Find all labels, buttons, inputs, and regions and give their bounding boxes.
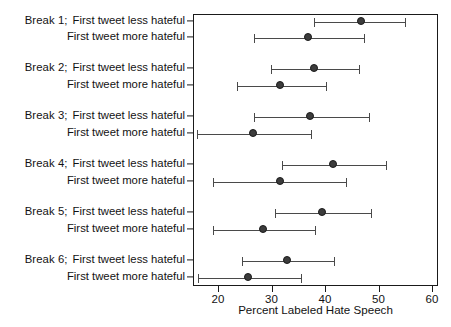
data-point-marker	[357, 17, 365, 25]
y-axis-label: First tweet more hateful	[67, 271, 185, 282]
break-group-label: Break 2;	[25, 61, 68, 73]
error-bar-cap-high	[359, 65, 360, 74]
y-axis-label: Break 4;First tweet less hateful	[25, 158, 185, 169]
condition-label: First tweet more hateful	[67, 174, 185, 186]
condition-label: First tweet less hateful	[73, 14, 185, 26]
y-axis-tick	[187, 276, 193, 277]
x-axis-tick	[432, 286, 433, 292]
y-axis-tick	[187, 36, 193, 37]
y-axis-label: Break 2;First tweet less hateful	[25, 62, 185, 73]
error-bar-cap-high	[301, 274, 302, 283]
error-bar-cap-high	[311, 130, 312, 139]
error-bar-cap-high	[326, 82, 327, 91]
y-axis-label: First tweet more hateful	[67, 223, 185, 234]
condition-label: First tweet less hateful	[73, 157, 185, 169]
error-bar-cap-high	[371, 209, 372, 218]
condition-label: First tweet more hateful	[67, 270, 185, 282]
data-point-marker	[329, 160, 337, 168]
y-axis-label: Break 5;First tweet less hateful	[25, 206, 185, 217]
x-axis-tick	[272, 286, 273, 292]
error-bar-cap-low	[197, 130, 198, 139]
error-bar-cap-high	[315, 226, 316, 235]
error-bar-cap-high	[334, 257, 335, 266]
data-point-marker	[310, 64, 318, 72]
error-bar-cap-low	[242, 257, 243, 266]
y-axis-label: First tweet more hateful	[67, 127, 185, 138]
plot-area	[193, 14, 438, 286]
error-bar-cap-high	[364, 34, 365, 43]
break-group-label: Break 1;	[25, 14, 68, 26]
y-axis-tick	[187, 132, 193, 133]
x-axis-tick	[325, 286, 326, 292]
data-point-marker	[249, 129, 257, 137]
y-axis-tick	[187, 20, 193, 21]
error-bar-cap-low	[213, 226, 214, 235]
error-bar-cap-low	[271, 65, 272, 74]
data-point-marker	[259, 225, 267, 233]
data-point-marker	[306, 112, 314, 120]
error-bar-cap-low	[237, 82, 238, 91]
y-axis-tick	[187, 228, 193, 229]
y-axis-tick	[187, 211, 193, 212]
condition-label: First tweet more hateful	[67, 30, 185, 42]
y-axis-tick	[187, 84, 193, 85]
data-point-marker	[244, 273, 252, 281]
error-bar-cap-low	[198, 274, 199, 283]
error-bar-cap-low	[254, 34, 255, 43]
y-axis-tick	[187, 67, 193, 68]
break-group-label: Break 4;	[25, 157, 68, 169]
condition-label: First tweet more hateful	[67, 126, 185, 138]
hate-speech-forest-plot: Break 1;First tweet less hatefulFirst tw…	[0, 0, 451, 327]
error-bar-cap-high	[369, 113, 370, 122]
data-point-marker	[276, 81, 284, 89]
error-bar-cap-low	[275, 209, 276, 218]
data-point-marker	[276, 177, 284, 185]
error-bar-cap-low	[213, 178, 214, 187]
error-bar-cap-low	[254, 113, 255, 122]
condition-label: First tweet less hateful	[73, 61, 185, 73]
condition-label: First tweet more hateful	[67, 222, 185, 234]
error-bar-cap-low	[282, 161, 283, 170]
y-axis-label: Break 6;First tweet less hateful	[25, 254, 185, 265]
y-axis-label-column: Break 1;First tweet less hatefulFirst tw…	[0, 14, 193, 286]
error-bar-cap-high	[386, 161, 387, 170]
error-bar-cap-high	[346, 178, 347, 187]
y-axis-label: First tweet more hateful	[67, 79, 185, 90]
condition-label: First tweet less hateful	[73, 253, 185, 265]
y-axis-tick	[187, 259, 193, 260]
y-axis-label: First tweet more hateful	[67, 31, 185, 42]
data-point-marker	[304, 33, 312, 41]
y-axis-tick	[187, 115, 193, 116]
y-axis-tick	[187, 180, 193, 181]
y-axis-label: Break 1;First tweet less hateful	[25, 15, 185, 26]
data-point-marker	[318, 208, 326, 216]
error-bar-cap-high	[405, 18, 406, 27]
x-axis-tick	[379, 286, 380, 292]
condition-label: First tweet more hateful	[67, 78, 185, 90]
break-group-label: Break 3;	[25, 109, 68, 121]
y-axis-label: First tweet more hateful	[67, 175, 185, 186]
y-axis-label: Break 3;First tweet less hateful	[25, 110, 185, 121]
data-point-marker	[283, 256, 291, 264]
condition-label: First tweet less hateful	[73, 205, 185, 217]
break-group-label: Break 6;	[25, 253, 68, 265]
x-axis-title: Percent Labeled Hate Speech	[193, 303, 438, 316]
condition-label: First tweet less hateful	[73, 109, 185, 121]
y-axis-tick	[187, 163, 193, 164]
x-axis-tick	[218, 286, 219, 292]
break-group-label: Break 5;	[25, 205, 68, 217]
error-bar-cap-low	[314, 18, 315, 27]
